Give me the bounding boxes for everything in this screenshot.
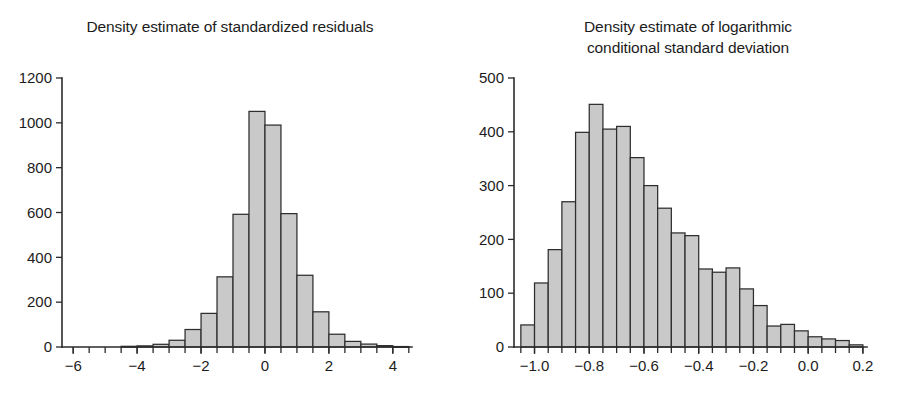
figure-two-histograms: Density estimate of standardized residua…: [0, 0, 918, 402]
x-tick-label: −0.6: [629, 357, 659, 374]
histogram-bar: [836, 341, 850, 347]
histogram-bar: [753, 306, 767, 347]
histogram-bar: [345, 341, 361, 347]
y-tick-label: 0: [44, 338, 52, 355]
bars-group: [521, 104, 863, 347]
y-tick-label: 1000: [19, 114, 52, 131]
histogram-bar: [617, 126, 631, 347]
histogram-bar: [281, 214, 297, 347]
histogram-bar: [767, 326, 781, 347]
histogram-bar: [313, 312, 329, 347]
panel-title-right: Density estimate of logarithmic conditio…: [458, 16, 918, 58]
histogram-bar: [185, 330, 201, 347]
histogram-bar: [217, 277, 233, 347]
panel-title-left: Density estimate of standardized residua…: [0, 16, 460, 37]
histogram-bar: [233, 214, 249, 347]
histogram-bar: [671, 233, 685, 347]
histogram-bar: [658, 208, 672, 347]
x-tick-label: 0.0: [798, 357, 819, 374]
x-tick-label: −4: [129, 357, 146, 374]
histogram-bar: [699, 269, 713, 347]
histogram-bar: [201, 313, 217, 347]
histogram-bar: [297, 275, 313, 347]
histogram-bar: [822, 339, 836, 347]
plot-area-left: 020040060080010001200−6−4−2024: [0, 60, 430, 360]
panel-title-right-line1: Density estimate of logarithmic: [458, 16, 918, 37]
y-tick-label: 0: [496, 338, 504, 355]
histogram-bar: [685, 236, 699, 347]
histogram-bar: [589, 104, 603, 347]
histogram-bar: [169, 340, 185, 347]
panel-standardized-residuals: Density estimate of standardized residua…: [0, 0, 460, 402]
y-tick-label: 200: [27, 293, 52, 310]
x-tick-label: −1.0: [520, 357, 550, 374]
x-tick-label: 2: [325, 357, 333, 374]
histogram-bar: [794, 331, 808, 347]
histogram-bar: [535, 283, 549, 347]
histogram-bar: [265, 125, 281, 347]
y-tick-label: 100: [479, 284, 504, 301]
histogram-bar: [630, 158, 644, 347]
histogram-bar: [808, 337, 822, 347]
histogram-bar: [329, 334, 345, 347]
histogram-bar: [249, 111, 265, 347]
histogram-bar: [603, 129, 617, 347]
y-tick-label: 1200: [19, 69, 52, 86]
y-tick-label: 600: [27, 204, 52, 221]
x-tick-label: −0.8: [574, 357, 604, 374]
y-tick-label: 800: [27, 159, 52, 176]
plot-area-right: 0100200300400500−1.0−0.8−0.6−0.4−0.20.00…: [458, 60, 888, 360]
panel-title-right-line2: conditional standard deviation: [458, 37, 918, 58]
histogram-bar: [726, 268, 740, 347]
histogram-bar: [521, 325, 535, 347]
panel-log-conditional-sd: Density estimate of logarithmic conditio…: [458, 0, 918, 402]
x-tick-label: −0.2: [739, 357, 769, 374]
y-tick-label: 200: [479, 231, 504, 248]
histogram-bar: [562, 202, 576, 347]
histogram-bar: [644, 186, 658, 347]
bars-group: [121, 111, 409, 347]
histogram-bar: [740, 289, 754, 347]
histogram-bar: [576, 132, 590, 347]
histogram-bar: [548, 250, 562, 347]
histogram-bar: [781, 324, 795, 347]
x-tick-label: 0: [261, 357, 269, 374]
y-tick-label: 500: [479, 69, 504, 86]
y-tick-label: 400: [27, 249, 52, 266]
histogram-bar: [712, 272, 726, 347]
x-tick-label: 4: [389, 357, 397, 374]
x-tick-label: 0.2: [852, 357, 873, 374]
x-tick-label: −6: [65, 357, 82, 374]
x-tick-label: −2: [192, 357, 209, 374]
y-tick-label: 400: [479, 123, 504, 140]
x-tick-label: −0.4: [684, 357, 714, 374]
y-tick-label: 300: [479, 177, 504, 194]
